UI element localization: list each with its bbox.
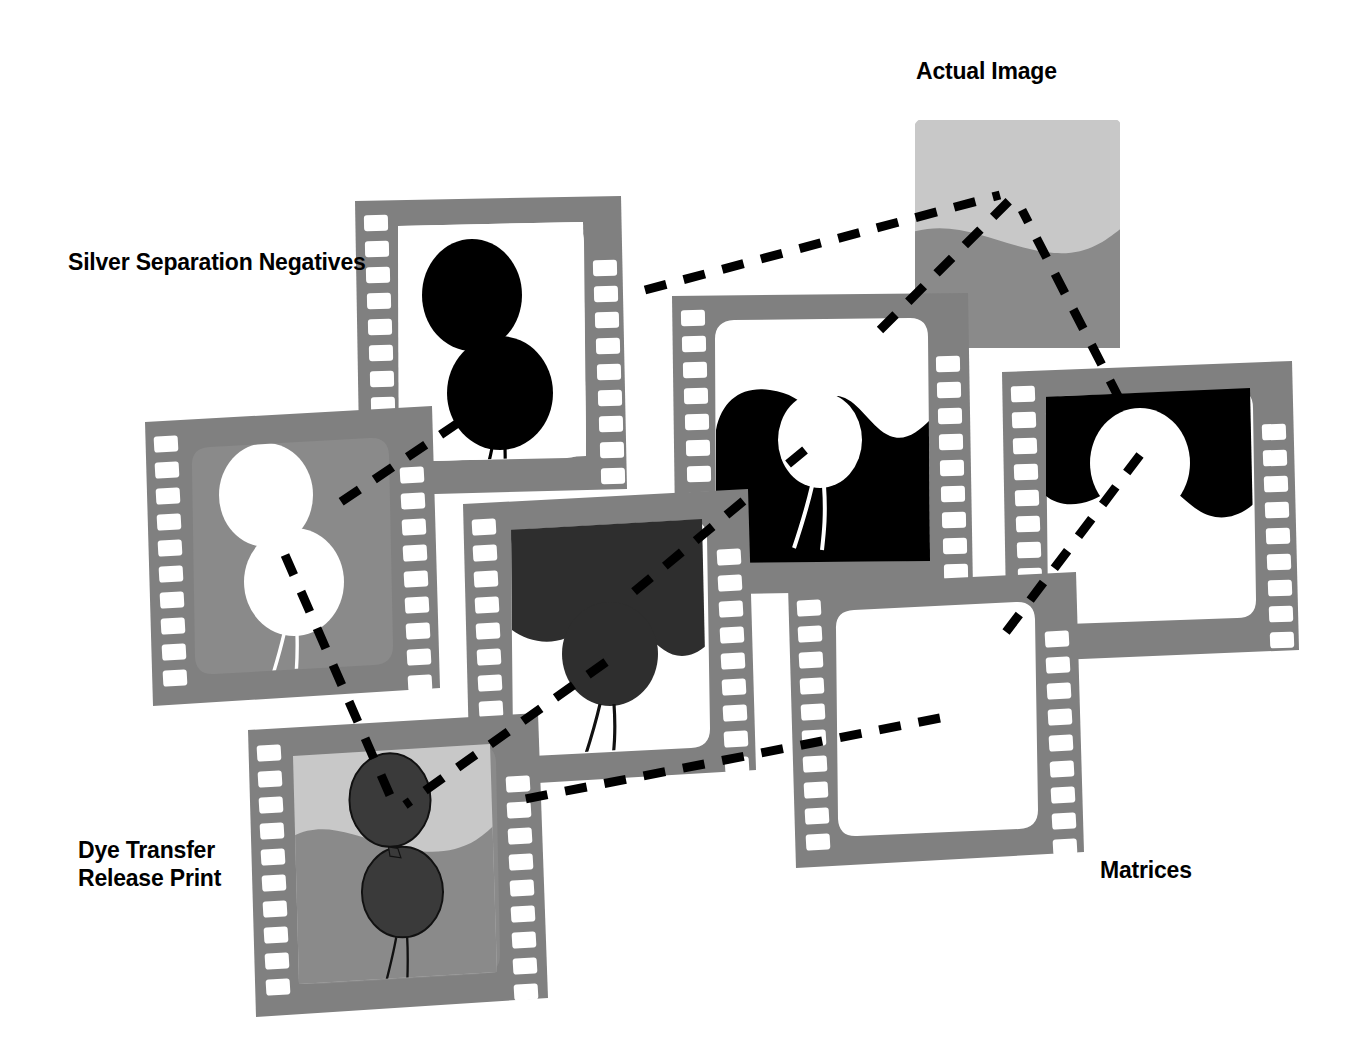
label-actual-image: Actual Image (916, 57, 1057, 85)
diagram-canvas: Silver Separation Negatives Actual Image… (0, 0, 1357, 1061)
node-matrix-1[interactable] (145, 406, 440, 706)
label-silver-separation-negatives: Silver Separation Negatives (68, 248, 366, 276)
label-dye-transfer-release-print: Dye Transfer Release Print (78, 836, 221, 892)
negative-3-content (1046, 384, 1258, 518)
diagram-graphics (0, 0, 1357, 1061)
label-matrices: Matrices (1100, 856, 1192, 884)
node-dye-transfer-print[interactable] (248, 713, 548, 1017)
